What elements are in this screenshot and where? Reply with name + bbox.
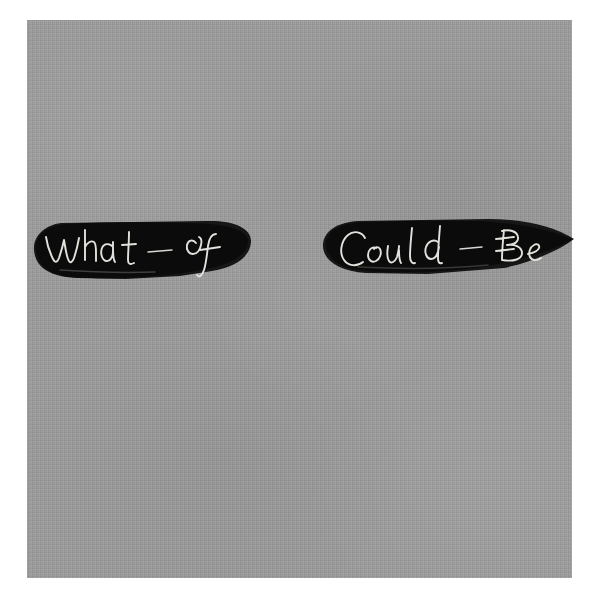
right-blob-svg [318, 210, 576, 290]
left-brush-blob: What - If [30, 212, 254, 292]
artwork-root: What - If Could - Be [0, 0, 599, 602]
canvas-mottling [27, 20, 572, 578]
right-brush-blob: Could - Be [318, 210, 576, 290]
left-blob-svg [30, 212, 254, 292]
right-blob-body [326, 221, 572, 273]
painted-canvas-panel [27, 20, 572, 578]
canvas-weave-texture [27, 20, 572, 578]
